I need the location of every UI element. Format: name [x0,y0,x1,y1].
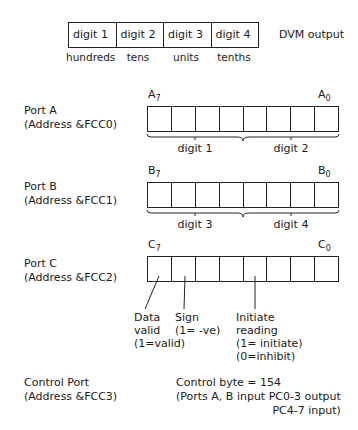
brace-icon [147,210,339,217]
leader-line-icon [145,276,159,309]
leader-line-icon [184,276,185,309]
brace-icon [147,134,339,141]
connector-overlay [0,0,358,430]
